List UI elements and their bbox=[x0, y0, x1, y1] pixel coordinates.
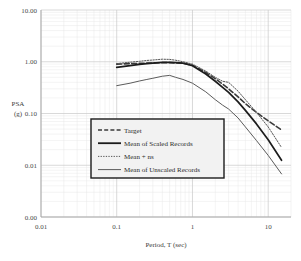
psa-spectrum-chart: 0.010.1110 10.001.000.100.010.00 Period,… bbox=[0, 0, 301, 261]
x-axis-title: Period, T (sec) bbox=[145, 241, 187, 249]
x-tick-label: 0.1 bbox=[112, 223, 121, 231]
y-tick-label: 0.01 bbox=[25, 162, 38, 170]
y-tick-label: 0.10 bbox=[25, 110, 38, 118]
y-axis-title-line1: PSA bbox=[12, 100, 25, 108]
legend-label: Mean of Unscaled Records bbox=[124, 166, 200, 174]
y-tick-label: 0.00 bbox=[25, 214, 38, 222]
y-tick-label: 1.00 bbox=[25, 58, 38, 66]
y-axis-title-line2: (g) bbox=[14, 110, 23, 118]
legend-label: Target bbox=[124, 127, 142, 135]
y-tick-label: 10.00 bbox=[21, 7, 37, 15]
x-tick-label: 0.01 bbox=[35, 223, 48, 231]
x-tick-label: 1 bbox=[191, 223, 195, 231]
legend-label: Mean + ns bbox=[124, 153, 154, 161]
x-tick-label: 10 bbox=[265, 223, 273, 231]
y-tick-labels: 10.001.000.100.010.00 bbox=[21, 7, 37, 222]
x-tick-labels: 0.010.1110 bbox=[35, 223, 272, 231]
legend-label: Mean of Scaled Records bbox=[124, 140, 193, 148]
chart-svg: 0.010.1110 10.001.000.100.010.00 Period,… bbox=[0, 0, 301, 261]
chart-legend: TargetMean of Scaled RecordsMean + nsMea… bbox=[91, 119, 224, 178]
